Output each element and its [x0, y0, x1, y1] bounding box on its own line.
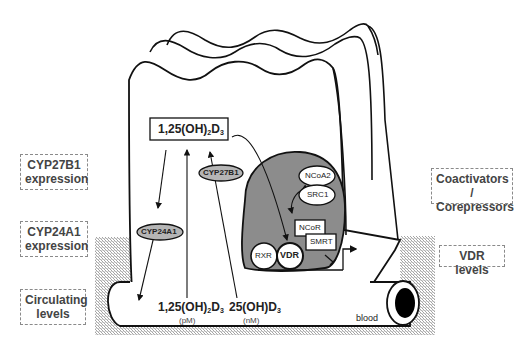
- ncoa2-label: NCoA2: [305, 171, 331, 180]
- blood-label: blood: [356, 313, 378, 323]
- vessel-lumen: [395, 288, 415, 318]
- active-metabolite-label: 1,25(OH)2D3: [158, 122, 224, 136]
- label-line: Corepressors: [436, 200, 508, 214]
- label-line: CYP27B1: [25, 158, 83, 172]
- back-cell-outline: [167, 24, 378, 55]
- label-line: Circulating: [25, 293, 81, 307]
- label-line: Coactivators /: [436, 172, 508, 200]
- label-cyp27b1-expression: CYP27B1 expression: [20, 154, 88, 190]
- formula-sub: 2: [207, 129, 211, 136]
- blood-active-metabolite: 1,25(OH)2D3: [158, 300, 224, 314]
- rxr-label: RXR: [255, 251, 272, 260]
- formula-sub: 3: [220, 307, 224, 314]
- label-vdr-levels: VDR levels: [439, 245, 505, 267]
- src1-label: SRC1: [307, 190, 328, 199]
- blood-25ohd3-unit: (nM): [243, 316, 259, 325]
- label-cyp24a1-expression: CYP24A1 expression: [20, 221, 88, 257]
- formula-part: 25(OH): [229, 300, 268, 314]
- label-line: VDR levels: [444, 249, 500, 277]
- smrt-label: SMRT: [310, 237, 333, 246]
- formula-part: 1,25(OH): [158, 300, 207, 314]
- ncor-label: NCoR: [299, 223, 321, 232]
- vdr-label: VDR: [280, 250, 299, 260]
- blood-25ohd3: 25(OH)D3: [229, 300, 281, 314]
- label-line: expression: [25, 172, 83, 186]
- blood-active-unit: (pM): [179, 316, 195, 325]
- cyp24a1-label: CYP24A1: [141, 227, 177, 236]
- label-line: CYP24A1: [25, 225, 83, 239]
- label-coactivators-corepressors: Coactivators / Corepressors: [431, 168, 513, 204]
- formula-part: D: [268, 300, 277, 314]
- formula-part: D: [211, 122, 220, 136]
- label-circulating-levels: Circulating levels: [20, 289, 86, 325]
- formula-sub: 3: [220, 129, 224, 136]
- formula-sub: 3: [277, 307, 281, 314]
- label-line: expression: [25, 239, 83, 253]
- label-line: levels: [25, 307, 81, 321]
- formula-part: 1,25(OH): [158, 122, 207, 136]
- formula-part: D: [211, 300, 220, 314]
- cyp27b1-label: CYP27B1: [203, 168, 239, 177]
- right-back-edge: [368, 26, 398, 240]
- formula-sub: 2: [207, 307, 211, 314]
